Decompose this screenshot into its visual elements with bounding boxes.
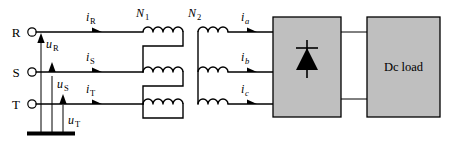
svg-text:u: u xyxy=(68,113,74,127)
voltage-label-us: u S xyxy=(57,77,69,93)
primary-delta-connection-group xyxy=(143,32,183,118)
svg-text:N: N xyxy=(187,6,197,20)
svg-text:2: 2 xyxy=(197,12,201,22)
svg-text:c: c xyxy=(245,88,249,98)
current-label-it: i T xyxy=(86,82,96,98)
svg-text:R: R xyxy=(90,16,96,26)
voltage-label-ut: u T xyxy=(68,113,81,129)
terminal-t-node xyxy=(28,100,36,108)
svg-text:i: i xyxy=(241,82,244,96)
delta-link-t-to-r xyxy=(143,104,183,118)
terminal-t-label: T xyxy=(12,97,20,112)
svg-text:i: i xyxy=(241,10,244,24)
circuit-diagram: R S T u R u S u T i R i S i T N xyxy=(0,0,451,147)
terminal-s-node xyxy=(28,68,36,76)
primary-coil-r xyxy=(143,27,183,32)
secondary-output-line-group xyxy=(228,32,273,104)
terminal-s-label: S xyxy=(12,65,19,80)
circuit-schematic-canvas: R S T u R u S u T i R i S i T N xyxy=(0,0,451,147)
svg-text:i: i xyxy=(86,10,89,24)
voltage-arrow-head-ut xyxy=(59,94,66,104)
svg-text:R: R xyxy=(53,43,59,53)
primary-coil-t xyxy=(143,99,183,104)
svg-text:T: T xyxy=(90,88,96,98)
voltage-arrow-head-ur xyxy=(37,33,44,43)
primary-coil-s xyxy=(143,67,183,72)
current-label-is: i S xyxy=(86,50,95,66)
current-label-ib: i b xyxy=(241,50,249,66)
terminal-r-node xyxy=(28,28,36,36)
terminal-r-label: R xyxy=(12,25,21,40)
delta-link-r-to-s xyxy=(143,32,183,72)
voltage-arrow-head-us xyxy=(48,62,55,72)
svg-text:T: T xyxy=(75,119,81,129)
current-label-ia: i a xyxy=(241,10,249,26)
current-label-ir: i R xyxy=(86,10,96,26)
secondary-coil-b xyxy=(198,67,228,72)
dc-load-label: Dc load xyxy=(384,60,424,74)
winding-label-n2: N 2 xyxy=(187,6,201,22)
secondary-winding-group xyxy=(198,27,228,104)
svg-text:a: a xyxy=(245,16,249,26)
svg-text:1: 1 xyxy=(145,12,149,22)
secondary-coil-a xyxy=(198,27,228,32)
source-terminal-group xyxy=(28,28,36,108)
current-arrow-ir xyxy=(92,28,102,32)
voltage-label-ur: u R xyxy=(46,37,59,53)
primary-winding-group xyxy=(143,27,183,104)
svg-text:u: u xyxy=(57,77,63,91)
svg-text:S: S xyxy=(64,83,69,93)
svg-text:N: N xyxy=(135,6,145,20)
dc-output-line-group xyxy=(341,32,367,99)
secondary-coil-c xyxy=(198,99,228,104)
current-arrow-ia xyxy=(247,28,257,32)
svg-text:S: S xyxy=(90,56,95,66)
svg-text:i: i xyxy=(86,50,89,64)
svg-text:u: u xyxy=(46,37,52,51)
svg-text:i: i xyxy=(86,82,89,96)
current-label-ic: i c xyxy=(241,82,249,98)
svg-text:i: i xyxy=(241,50,244,64)
svg-text:b: b xyxy=(245,56,249,66)
winding-label-n1: N 1 xyxy=(135,6,149,22)
